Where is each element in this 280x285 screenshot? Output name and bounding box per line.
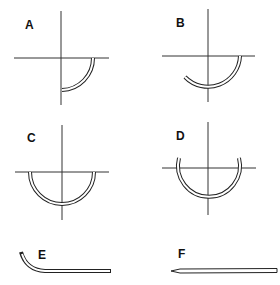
panel-c-label: C xyxy=(27,131,36,145)
panel-f: F xyxy=(171,247,277,273)
panel-d-needle xyxy=(178,158,240,197)
panel-e-label: E xyxy=(38,248,46,262)
panel-a: A xyxy=(14,11,109,105)
panel-b: B xyxy=(162,9,255,102)
panel-c: C xyxy=(15,125,109,220)
panel-f-label: F xyxy=(178,247,185,261)
panel-d-label: D xyxy=(176,129,185,143)
panel-e: E xyxy=(21,248,111,271)
needle-shapes-diagram: A B C D E F xyxy=(0,0,280,285)
panel-a-label: A xyxy=(25,18,34,32)
panel-f-needle xyxy=(171,269,277,274)
panel-d: D xyxy=(162,122,256,215)
panel-b-label: B xyxy=(176,16,185,30)
